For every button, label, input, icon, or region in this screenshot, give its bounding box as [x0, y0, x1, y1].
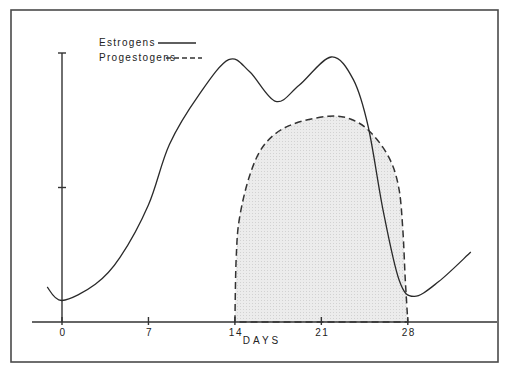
x-tick-label: 28	[402, 327, 416, 338]
legend: Estrogens Progestogens	[99, 37, 202, 63]
chart: 07142128 DAYS Estrogens Progestogens	[0, 0, 506, 369]
x-tick-label: 7	[146, 327, 153, 338]
legend-label-estrogens: Estrogens	[99, 37, 156, 48]
x-tick-label: 0	[59, 327, 66, 338]
x-tick-label: 21	[315, 327, 329, 338]
legend-label-progestogens: Progestogens	[99, 52, 176, 63]
x-tick-label: 14	[229, 327, 243, 338]
x-axis-label: DAYS	[243, 335, 282, 346]
series-progestogens-area	[235, 116, 408, 322]
